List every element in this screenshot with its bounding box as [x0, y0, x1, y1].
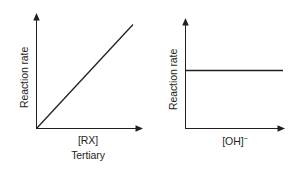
x-axis-label-hydroxide-text: [OH] [222, 135, 243, 147]
superscript-minus-icon: − [243, 134, 247, 143]
x-axis-arrow-icon [278, 125, 286, 132]
reaction-rate-figure: Reaction rate [RX] Tertiary Reaction rat… [0, 0, 305, 178]
y-axis-label-tertiary: Reaction rate [18, 47, 30, 108]
x-axis-sublabel-tertiary: Tertiary [38, 149, 138, 161]
x-axis-arrow-icon [136, 125, 144, 132]
chart-panel-tertiary: Reaction rate [RX] Tertiary [0, 0, 152, 178]
x-axis-label-hydroxide: [OH]− [185, 135, 285, 147]
y-axis-arrow-icon [33, 13, 40, 21]
data-series-line-tertiary [37, 25, 134, 129]
y-axis-label-hydroxide: Reaction rate [167, 49, 179, 110]
y-axis-arrow-icon [182, 18, 189, 26]
x-axis-label-tertiary: [RX] [38, 134, 138, 146]
chart-panel-hydroxide: Reaction rate [OH]− [152, 0, 305, 178]
